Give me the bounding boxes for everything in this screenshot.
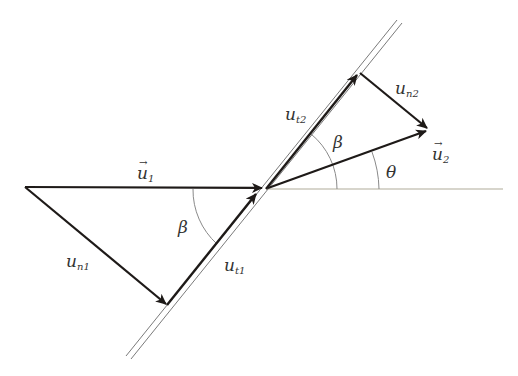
vector-un2 [360, 73, 427, 128]
vector-arrow-glyph: → [434, 138, 443, 149]
beta-arc-lower [193, 189, 217, 244]
label-theta: θ [386, 162, 396, 182]
label-beta-lower: β [177, 217, 188, 237]
label-u2: u2 → [432, 138, 449, 165]
svg-text:ut2: ut2 [285, 104, 306, 125]
vector-ut1 [167, 194, 256, 305]
label-ut1: ut1 [224, 255, 245, 276]
vector-un1 [25, 187, 166, 304]
label-ut2: ut2 [285, 104, 306, 125]
diagram-canvas: u1 → un1 ut1 ut2 un2 u2 → β β θ [0, 0, 518, 376]
theta-arc [372, 152, 379, 189]
label-beta-upper: β [332, 132, 343, 152]
label-u1: u1 → [137, 157, 154, 184]
svg-text:un2: un2 [395, 78, 419, 99]
svg-text:ut1: ut1 [224, 255, 245, 276]
vector-u1 [25, 187, 262, 188]
vector-arrow-glyph: → [139, 157, 148, 168]
label-un1: un1 [66, 251, 90, 272]
label-un2: un2 [395, 78, 419, 99]
svg-text:un1: un1 [66, 251, 90, 272]
